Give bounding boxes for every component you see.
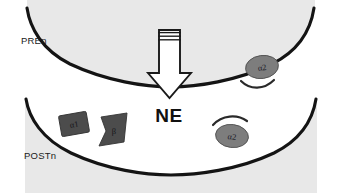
post-alpha2-arc (213, 116, 247, 125)
receptor-post-alpha1: α1 (58, 111, 89, 137)
receptor-post-alpha2-label: α2 (227, 131, 237, 142)
presynaptic-neuron-label: PREn (21, 35, 47, 46)
receptor-pre-alpha2-label: α2 (257, 62, 267, 73)
synapse-diagram: α2 α1 β α2 PREn POSTn NE (0, 0, 342, 193)
receptor-post-alpha1-label: α1 (69, 119, 79, 130)
neurotransmitter-label: NE (155, 105, 182, 126)
receptor-post-alpha2: α2 (213, 116, 250, 149)
synapse-diagram-canvas: α2 α1 β α2 PREn POSTn NE (0, 0, 342, 193)
receptor-post-beta: β (99, 113, 127, 146)
postsynaptic-neuron-label: POSTn (24, 150, 56, 161)
pre-alpha2-arc (241, 80, 274, 88)
receptor-post-beta-label: β (112, 126, 116, 136)
